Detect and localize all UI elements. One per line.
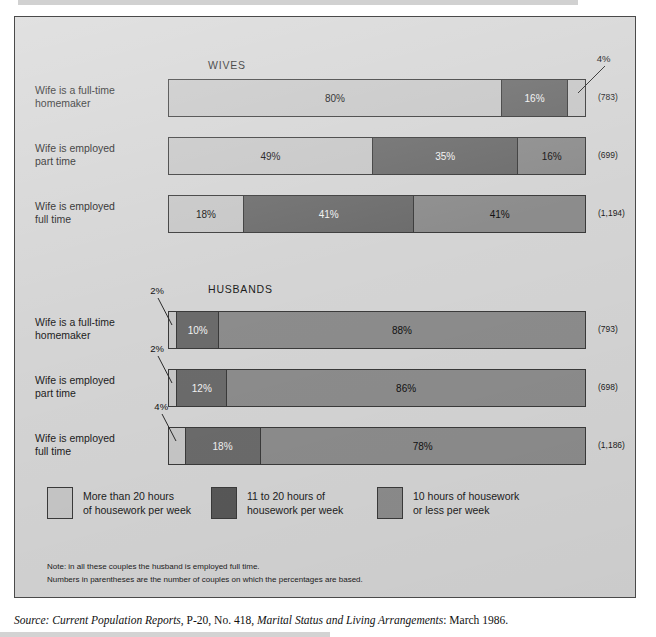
legend-label-line1: More than 20 hours <box>83 489 191 503</box>
figure-notes: Note: in all these couples the husband i… <box>47 560 587 586</box>
legend-label-line2: or less per week <box>413 503 519 517</box>
bar-segment-light: 18% <box>169 196 244 232</box>
bar-segment-value: 88% <box>392 325 412 336</box>
row-category-line1: Wife is employed <box>35 432 175 445</box>
source-series: , P-20, No. 418, <box>181 614 257 626</box>
figure-note: Numbers in parentheses are the number of… <box>47 573 587 586</box>
bar-segment-medium: 88% <box>219 312 585 348</box>
row-sample-count: (1,186) <box>598 440 625 450</box>
bar-segment-value: 16% <box>525 93 545 104</box>
bar-segment-value: 80% <box>325 93 345 104</box>
legend-item: More than 20 hoursof housework per week <box>47 487 191 519</box>
row-category-label: Wife is employedpart time <box>35 142 175 168</box>
legend-swatch-dark <box>211 487 237 519</box>
bar-segment-value: 49% <box>260 151 280 162</box>
bar-row: Wife is employedfull time4%18%78%(1,186) <box>15 423 635 469</box>
caption-rule-top <box>18 0 578 5</box>
segment-callout-label: 4% <box>154 401 168 412</box>
row-category-line1: Wife is a full-time <box>35 316 175 329</box>
bar-row: Wife is a full-timehomemaker80%16%4%(783… <box>15 75 635 121</box>
segment-callout-leader-line <box>156 354 176 385</box>
row-category-line1: Wife is employed <box>35 142 175 155</box>
bar-segment-medium: 78% <box>261 428 585 464</box>
legend-label: 10 hours of houseworkor less per week <box>413 487 519 517</box>
row-category-line2: full time <box>35 213 175 226</box>
stacked-bar: 4%18%78% <box>168 427 586 465</box>
bar-segment-value: 86% <box>396 383 416 394</box>
row-category-label: Wife is a full-timehomemaker <box>35 316 175 342</box>
group-heading-wives: WIVES <box>208 59 246 71</box>
legend-label-line1: 10 hours of housework <box>413 489 519 503</box>
bar-segment-value: 18% <box>196 209 216 220</box>
stacked-bar: 2%12%86% <box>168 369 586 407</box>
bar-segment-dark: 18% <box>186 428 261 464</box>
row-category-line2: full time <box>35 445 175 458</box>
bar-segment-medium: 86% <box>227 370 585 406</box>
bar-segment-value: 18% <box>213 441 233 452</box>
page-rule-bottom <box>0 632 330 637</box>
source-label: Source: <box>14 614 49 626</box>
bar-segment-medium: 16% <box>518 138 585 174</box>
legend-label-line2: of housework per week <box>83 503 191 517</box>
legend-label-line1: 11 to 20 hours of <box>247 489 343 503</box>
segment-callout-label: 4% <box>597 53 611 64</box>
segment-callout-leader-line <box>576 64 609 95</box>
bar-segment-value: 16% <box>542 151 562 162</box>
stacked-bar: 80%16%4% <box>168 79 586 117</box>
figure-note: Note: in all these couples the husband i… <box>47 560 587 573</box>
bar-segment-dark: 35% <box>373 138 519 174</box>
legend-label: More than 20 hoursof housework per week <box>83 487 191 517</box>
row-category-line1: Wife is a full-time <box>35 84 175 97</box>
source-publication: Current Population Reports <box>52 614 181 626</box>
bar-segment-medium: 41% <box>414 196 585 232</box>
legend-label: 11 to 20 hours ofhousework per week <box>247 487 343 517</box>
chart-legend: More than 20 hoursof housework per week1… <box>15 487 635 537</box>
row-category-label: Wife is employedfull time <box>35 200 175 226</box>
bar-segment-dark: 16% <box>502 80 569 116</box>
segment-callout-leader-line <box>160 412 180 443</box>
segment-callout-leader-line <box>156 296 176 327</box>
segment-callout-label: 2% <box>150 285 164 296</box>
legend-swatch-light <box>47 487 73 519</box>
row-category-label: Wife is employedfull time <box>35 432 175 458</box>
row-category-line2: part time <box>35 387 175 400</box>
bar-segment-value: 41% <box>490 209 510 220</box>
row-category-line2: part time <box>35 155 175 168</box>
row-category-line2: homemaker <box>35 329 175 342</box>
bar-segment-light: 80% <box>169 80 502 116</box>
bar-row: Wife is employedpart time2%12%86%(698) <box>15 365 635 411</box>
bar-row: Wife is employedfull time18%41%41%(1,194… <box>15 191 635 237</box>
bar-segment-light: 49% <box>169 138 373 174</box>
bar-segment-value: 10% <box>188 325 208 336</box>
bar-segment-value: 12% <box>192 383 212 394</box>
bar-segment-dark: 41% <box>244 196 415 232</box>
stacked-bar: 18%41%41% <box>168 195 586 233</box>
legend-item: 10 hours of houseworkor less per week <box>377 487 519 519</box>
row-category-label: Wife is a full-timehomemaker <box>35 84 175 110</box>
row-category-line2: homemaker <box>35 97 175 110</box>
legend-item: 11 to 20 hours ofhousework per week <box>211 487 343 519</box>
bar-segment-dark: 12% <box>177 370 227 406</box>
source-report-title: Marital Status and Living Arrangements <box>257 614 443 626</box>
bar-row: Wife is a full-timehomemaker2%10%88%(793… <box>15 307 635 353</box>
row-sample-count: (793) <box>598 324 618 334</box>
row-category-line1: Wife is employed <box>35 374 175 387</box>
row-category-line1: Wife is employed <box>35 200 175 213</box>
segment-callout-label: 2% <box>150 343 164 354</box>
bar-segment-value: 41% <box>319 209 339 220</box>
row-sample-count: (698) <box>598 382 618 392</box>
legend-label-line2: housework per week <box>247 503 343 517</box>
row-sample-count: (1,194) <box>598 208 625 218</box>
bar-segment-dark: 10% <box>177 312 219 348</box>
bar-segment-value: 35% <box>435 151 455 162</box>
stacked-bar: 49%35%16% <box>168 137 586 175</box>
figure-panel: WIVESWife is a full-timehomemaker80%16%4… <box>14 16 636 598</box>
row-category-label: Wife is employedpart time <box>35 374 175 400</box>
source-citation: Source: Current Population Reports, P-20… <box>14 614 508 626</box>
legend-swatch-medium <box>377 487 403 519</box>
group-heading-husbands: HUSBANDS <box>208 283 273 295</box>
bar-row: Wife is employedpart time49%35%16%(699) <box>15 133 635 179</box>
bar-segment-value: 78% <box>413 441 433 452</box>
stacked-bar: 2%10%88% <box>168 311 586 349</box>
source-date: : March 1986. <box>443 614 508 626</box>
